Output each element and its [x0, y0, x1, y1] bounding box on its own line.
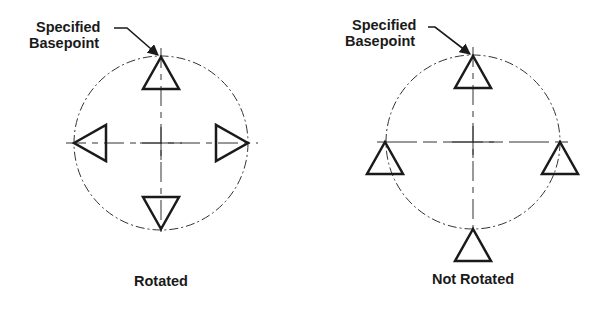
leader-arrow	[428, 27, 470, 54]
basepoint-label-line1: Specified	[352, 17, 416, 33]
leader-arrow	[114, 28, 158, 55]
triangle-marker-bottom	[455, 229, 491, 261]
caption-not-rotated: Not Rotated	[413, 271, 533, 287]
rotated-diagram	[66, 28, 258, 238]
basepoint-label-line2: Basepoint	[29, 35, 99, 51]
not-rotated-diagram	[367, 27, 578, 261]
caption-rotated: Rotated	[111, 273, 211, 289]
basepoint-label-line2: Basepoint	[345, 33, 415, 49]
triangle-marker-left	[367, 142, 403, 174]
basepoint-label-line1: Specified	[36, 19, 100, 35]
